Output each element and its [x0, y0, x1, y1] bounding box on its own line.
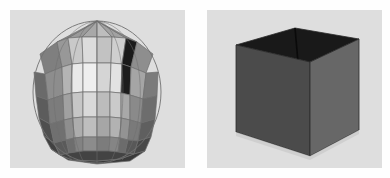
cube-object	[236, 28, 359, 160]
sphere-panel[interactable]	[10, 10, 185, 168]
cube-render	[207, 10, 382, 168]
screenshot-root	[0, 0, 390, 178]
cube-panel[interactable]	[207, 10, 382, 168]
sphere-render	[10, 10, 185, 168]
